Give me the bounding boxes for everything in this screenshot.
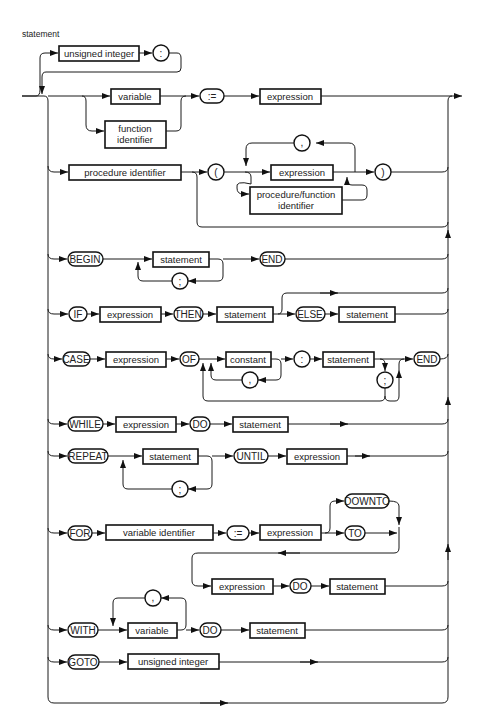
svg-text:expression: expression bbox=[267, 91, 313, 102]
svg-text:expression: expression bbox=[113, 354, 159, 365]
svg-text:FOR: FOR bbox=[69, 528, 90, 539]
for-branch: FOR variable identifier := expression DO… bbox=[48, 494, 448, 594]
svg-text:): ) bbox=[381, 167, 384, 178]
svg-text:;: ; bbox=[179, 484, 182, 495]
svg-text:DO: DO bbox=[193, 419, 208, 430]
svg-text:identifier: identifier bbox=[117, 134, 153, 145]
svg-text::=: := bbox=[234, 528, 243, 539]
svg-text:;: ; bbox=[384, 375, 387, 386]
main-rails bbox=[44, 96, 452, 703]
svg-text:DO: DO bbox=[293, 581, 308, 592]
svg-text:,: , bbox=[301, 137, 304, 148]
assignment-branch: variable function identifier := expressi… bbox=[48, 89, 448, 148]
svg-text:statement: statement bbox=[239, 419, 281, 430]
svg-text::=: := bbox=[208, 91, 217, 102]
svg-text:BEGIN: BEGIN bbox=[69, 254, 100, 265]
svg-text:WITH: WITH bbox=[70, 625, 96, 636]
compound-branch: BEGIN statement ; END bbox=[48, 252, 448, 289]
svg-text:variable: variable bbox=[118, 91, 151, 102]
svg-text:UNTIL: UNTIL bbox=[237, 451, 266, 462]
svg-text:expression: expression bbox=[219, 581, 265, 592]
svg-text:END: END bbox=[416, 354, 437, 365]
procedure-call-branch: procedure identifier ( expression proced… bbox=[48, 135, 448, 238]
svg-text:,: , bbox=[152, 592, 155, 603]
svg-text:END: END bbox=[261, 254, 282, 265]
svg-text:expression: expression bbox=[107, 309, 153, 320]
svg-text:DO: DO bbox=[203, 625, 218, 636]
colon-label: : bbox=[160, 48, 163, 59]
svg-text:procedure identifier: procedure identifier bbox=[84, 167, 165, 178]
svg-text:statement: statement bbox=[160, 254, 202, 265]
svg-text:expression: expression bbox=[279, 167, 325, 178]
svg-text:CASE: CASE bbox=[62, 354, 90, 365]
unsigned-integer-label: unsigned integer bbox=[64, 48, 134, 59]
svg-text:;: ; bbox=[179, 276, 182, 287]
svg-text:variable identifier: variable identifier bbox=[123, 527, 195, 538]
svg-text:expression: expression bbox=[267, 527, 313, 538]
svg-text:TO: TO bbox=[348, 528, 362, 539]
svg-text::: : bbox=[301, 354, 304, 365]
svg-text:GOTO: GOTO bbox=[68, 657, 97, 668]
if-branch: IF expression THEN statement ELSE statem… bbox=[48, 288, 448, 322]
svg-text:expression: expression bbox=[294, 451, 340, 462]
case-branch: CASE expression OF constant , : statemen… bbox=[48, 351, 448, 405]
svg-text:statement: statement bbox=[149, 451, 191, 462]
with-branch: WITH variable , DO statement bbox=[48, 590, 448, 638]
svg-text:THEN: THEN bbox=[174, 309, 201, 320]
svg-text:DOWNTO: DOWNTO bbox=[344, 496, 390, 507]
svg-text:function: function bbox=[118, 123, 151, 134]
svg-text:REPEAT: REPEAT bbox=[68, 451, 107, 462]
svg-text:,: , bbox=[249, 374, 252, 385]
svg-text:statement: statement bbox=[224, 309, 266, 320]
statement-syntax-diagram: statement unsigned integer : variable fu… bbox=[0, 0, 478, 721]
goto-branch: GOTO unsigned integer bbox=[48, 654, 448, 669]
svg-text:ELSE: ELSE bbox=[297, 309, 323, 320]
svg-text:statement: statement bbox=[256, 625, 298, 636]
repeat-branch: REPEAT statement ; UNTIL expression bbox=[48, 449, 448, 497]
svg-text:statement: statement bbox=[346, 309, 388, 320]
svg-text:constant: constant bbox=[230, 354, 266, 365]
svg-text:identifier: identifier bbox=[278, 200, 314, 211]
svg-text:OF: OF bbox=[182, 354, 196, 365]
svg-text:WHILE: WHILE bbox=[69, 419, 101, 430]
svg-text:unsigned integer: unsigned integer bbox=[138, 656, 208, 667]
diagram-title: statement bbox=[22, 29, 60, 39]
svg-text:IF: IF bbox=[74, 309, 83, 320]
svg-text:procedure/function: procedure/function bbox=[257, 189, 336, 200]
svg-text:statement: statement bbox=[336, 581, 378, 592]
while-branch: WHILE expression DO statement bbox=[48, 417, 448, 432]
svg-text:variable: variable bbox=[135, 625, 168, 636]
svg-text:expression: expression bbox=[123, 419, 169, 430]
svg-text:statement: statement bbox=[327, 354, 369, 365]
